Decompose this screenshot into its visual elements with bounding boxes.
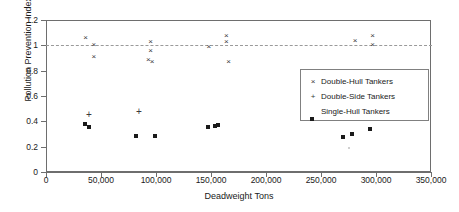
x-tick-label: 150,000 [196, 176, 227, 185]
y-axis-line [46, 20, 47, 173]
x-tick-label: 50,000 [88, 176, 114, 185]
y-tick [41, 71, 46, 72]
chart-legend: × Double-Hull Tankers + Double-Side Tank… [300, 69, 429, 121]
x-axis-line [46, 172, 432, 173]
data-point-x: × [148, 38, 153, 46]
data-point-square [153, 134, 157, 138]
y-tick-label: 0 [0, 168, 38, 177]
chart-figure: 00.20.40.60.811.2 050,000100,000150,0002… [0, 0, 459, 212]
plus-marker-icon: + [307, 93, 319, 101]
x-tick-label: 350,000 [416, 176, 447, 185]
data-point-square [206, 125, 210, 129]
legend-item-single-hull: Single-Hull Tankers [307, 104, 422, 119]
x-marker-icon: × [307, 78, 319, 86]
data-point-x: × [224, 38, 229, 46]
y-tick [41, 147, 46, 148]
data-point-square [350, 132, 354, 136]
data-point-x: × [226, 58, 231, 66]
data-point-square [216, 123, 220, 127]
legend-label-single-hull: Single-Hull Tankers [319, 107, 390, 116]
data-point-x: × [206, 43, 211, 51]
data-point-x: × [370, 41, 375, 49]
legend-label-double-side: Double-Side Tankers [319, 92, 395, 101]
x-tick-label: 100,000 [141, 176, 172, 185]
y-tick [41, 45, 46, 46]
legend-item-double-hull: × Double-Hull Tankers [307, 74, 422, 89]
data-point-square [341, 135, 345, 139]
legend-item-double-side: + Double-Side Tankers [307, 89, 422, 104]
x-axis-title: Deadweight Tons [46, 191, 432, 201]
y-tick [41, 20, 46, 21]
x-tick-label: 250,000 [306, 176, 337, 185]
data-point-+: + [136, 107, 142, 117]
data-point-x: × [92, 41, 97, 49]
data-point-x: × [370, 32, 375, 40]
y-tick [41, 96, 46, 97]
data-point-x: × [150, 58, 155, 66]
data-point-x: × [83, 34, 88, 42]
y-axis-title: Pollution Prevention Index E [23, 0, 33, 125]
x-tick-label: 300,000 [361, 176, 392, 185]
data-point-square [348, 147, 350, 149]
data-point-x: × [92, 53, 97, 61]
data-point-x: × [148, 47, 153, 55]
data-point-square [134, 134, 138, 138]
data-point-+: + [86, 110, 92, 120]
data-point-square [87, 125, 91, 129]
x-tick-label: 200,000 [251, 176, 282, 185]
y-tick-label: 0.2 [0, 143, 38, 152]
x-tick-label: 0 [44, 176, 49, 185]
legend-label-double-hull: Double-Hull Tankers [319, 77, 393, 86]
data-point-x: × [353, 37, 358, 45]
data-point-square [368, 127, 372, 131]
y-tick [41, 121, 46, 122]
